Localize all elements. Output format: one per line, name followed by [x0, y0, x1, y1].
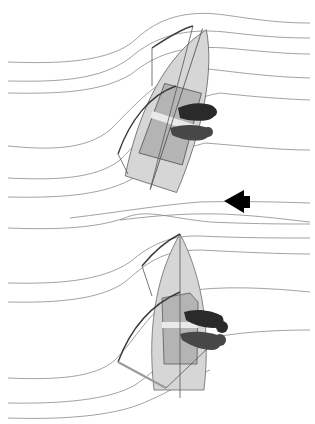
diagram-svg	[0, 0, 315, 424]
sailing-diagram	[0, 0, 315, 424]
wind-direction-arrow	[224, 190, 250, 213]
